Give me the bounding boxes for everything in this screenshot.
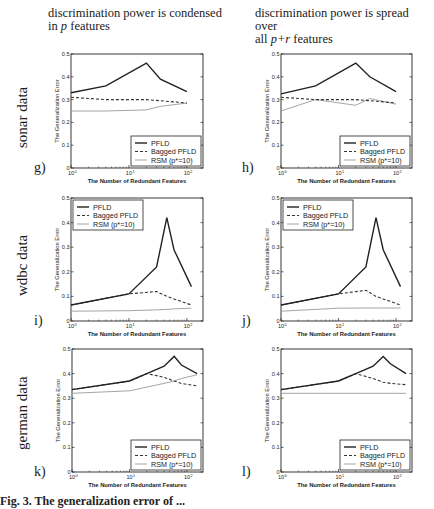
x-tick-label: 10: [69, 474, 75, 480]
svg-text:1: 1: [342, 323, 344, 327]
chart-k: 00.10.20.30.40.5100101102The Number of R…: [55, 346, 203, 488]
y-tick-label: 0.3: [272, 395, 280, 401]
y-tick-label: 0.3: [272, 97, 280, 103]
y-tick-label: 0.4: [272, 74, 280, 80]
legend: PFLDBagged PFLDRSM (p*=10): [340, 440, 410, 470]
y-tick-label: 0.2: [272, 119, 280, 125]
series-pfld: [71, 63, 187, 93]
x-tick-label: 10: [126, 170, 132, 176]
x-tick-label: 10: [68, 323, 74, 329]
series-pfld: [72, 356, 197, 389]
svg-text:2: 2: [399, 474, 401, 478]
y-axis-label: The Generalization Error: [264, 79, 270, 143]
svg-text:0: 0: [285, 323, 287, 327]
series-pfld: [281, 218, 401, 305]
y-tick-label: 0.3: [62, 97, 70, 103]
legend-entry: RSM (p*=10): [151, 156, 193, 165]
series-pfld: [281, 356, 406, 389]
y-tick-label: 0.1: [62, 142, 70, 148]
y-tick-label: 0.5: [272, 346, 280, 352]
y-tick-label: 0.4: [62, 74, 70, 80]
chart-h: 00.10.20.30.40.5100101102The Number of R…: [264, 51, 412, 184]
x-tick-label: 10: [126, 474, 132, 480]
y-tick-label: 0.3: [63, 395, 71, 401]
series-rsm-p-10-: [71, 308, 191, 311]
x-tick-label: 10: [68, 170, 74, 176]
figure-caption: Fig. 3. The generalization error of ...: [0, 494, 185, 509]
svg-text:0: 0: [75, 323, 77, 327]
y-tick-label: 0.2: [63, 420, 71, 426]
x-tick-label: 10: [278, 323, 284, 329]
y-tick-label: 0.1: [63, 444, 71, 450]
svg-text:0: 0: [75, 170, 77, 174]
y-tick-label: 0.2: [272, 269, 280, 275]
x-tick-label: 10: [126, 323, 132, 329]
chart-l: 00.10.20.30.40.5100101102The Number of R…: [264, 346, 412, 488]
x-tick-label: 10: [335, 323, 341, 329]
svg-text:2: 2: [190, 323, 192, 327]
legend: PFLDBagged PFLDRSM (p*=10): [73, 200, 143, 230]
y-tick-label: 0.2: [62, 269, 70, 275]
y-tick-label: 0.5: [272, 51, 280, 57]
legend: PFLDBagged PFLDRSM (p*=10): [283, 200, 353, 230]
y-tick-label: 0.4: [272, 371, 280, 377]
series-pfld: [71, 218, 191, 305]
series-bagged-pfld: [71, 97, 187, 103]
svg-text:2: 2: [399, 170, 401, 174]
y-tick-label: 0.4: [63, 371, 71, 377]
legend: PFLDBagged PFLDRSM (p*=10): [340, 136, 410, 166]
y-tick-label: 0.5: [62, 51, 70, 57]
x-tick-label: 10: [393, 170, 399, 176]
x-axis-label: The Number of Redundant Features: [88, 482, 187, 488]
y-tick-label: 0.4: [272, 220, 280, 226]
x-axis-label: The Number of Redundant Features: [297, 482, 396, 488]
series-bagged-pfld: [71, 292, 191, 306]
x-tick-label: 10: [184, 323, 190, 329]
y-tick-label: 0.3: [62, 244, 70, 250]
y-tick-label: 0.1: [272, 293, 280, 299]
svg-text:2: 2: [190, 170, 192, 174]
y-axis-label: The Generalization Error: [264, 379, 270, 443]
chart-g: 00.10.20.30.40.5100101102The Number of R…: [54, 51, 203, 184]
y-tick-label: 0.5: [272, 195, 280, 201]
y-tick-label: 0.5: [62, 195, 70, 201]
y-axis-label: The Generalization Error: [54, 79, 60, 143]
y-tick-label: 0.4: [62, 220, 70, 226]
svg-text:2: 2: [190, 474, 192, 478]
legend-entry: RSM (p*=10): [151, 460, 193, 469]
svg-text:1: 1: [132, 170, 134, 174]
chart-i: 00.10.20.30.40.5100101102The Number of R…: [54, 195, 203, 337]
legend: PFLDBagged PFLDRSM (p*=10): [131, 136, 201, 166]
legend-entry: RSM (p*=10): [303, 220, 345, 229]
svg-text:0: 0: [76, 474, 78, 478]
y-axis-label: The Generalization Error: [54, 228, 60, 292]
svg-text:1: 1: [133, 474, 135, 478]
y-tick-label: 0.2: [62, 119, 70, 125]
legend-entry: RSM (p*=10): [360, 460, 402, 469]
y-tick-label: 0.1: [272, 444, 280, 450]
svg-text:0: 0: [285, 170, 287, 174]
x-tick-label: 10: [393, 474, 399, 480]
y-tick-label: 0.2: [272, 420, 280, 426]
x-tick-label: 10: [184, 474, 190, 480]
x-tick-label: 10: [335, 170, 341, 176]
series-rsm-p-10-: [71, 103, 187, 111]
svg-text:0: 0: [285, 474, 287, 478]
y-axis-label: The Generalization Error: [55, 379, 61, 443]
x-tick-label: 10: [184, 170, 190, 176]
y-axis-label: The Generalization Error: [264, 228, 270, 292]
x-tick-label: 10: [393, 323, 399, 329]
y-tick-label: 0.5: [63, 346, 71, 352]
y-tick-label: 0.1: [272, 142, 280, 148]
series-rsm-p-10-: [72, 375, 197, 394]
x-tick-label: 10: [335, 474, 341, 480]
svg-text:1: 1: [132, 323, 134, 327]
x-tick-label: 10: [278, 474, 284, 480]
svg-text:1: 1: [342, 474, 344, 478]
legend: PFLDBagged PFLDRSM (p*=10): [131, 440, 201, 470]
x-axis-label: The Number of Redundant Features: [297, 331, 396, 337]
series-rsm-p-10-: [281, 308, 401, 311]
x-axis-label: The Number of Redundant Features: [88, 178, 187, 184]
svg-text:2: 2: [399, 323, 401, 327]
